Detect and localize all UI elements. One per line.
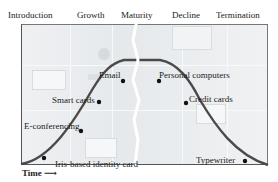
label-personal-computers: Personal computers (159, 70, 230, 80)
x-axis-label: Time ⟶ (22, 168, 57, 178)
data-point (184, 101, 188, 105)
label-typewriter: Typewriter (196, 155, 235, 165)
data-point (121, 79, 125, 83)
data-point (97, 100, 101, 104)
data-point (243, 159, 247, 163)
label-iris-identity-card: Iris-based identity card (55, 159, 138, 169)
label-e-conferencing: E-conferencing (24, 121, 79, 131)
label-email: Email (99, 70, 121, 80)
data-point (42, 156, 46, 160)
technology-life-cycle-diagram: Introduction Growth Maturity Decline Ter… (0, 0, 278, 182)
label-credit-cards: Credit cards (189, 94, 233, 104)
life-cycle-curve (0, 0, 278, 182)
x-axis-arrow-icon: ⟶ (44, 168, 57, 178)
label-smart-cards: Smart cards (52, 95, 95, 105)
x-axis-text: Time (22, 168, 42, 178)
